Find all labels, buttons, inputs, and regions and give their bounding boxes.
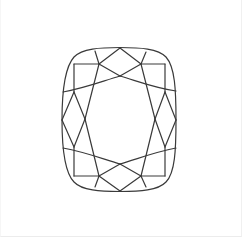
cushion-diamond-diagram	[0, 0, 250, 245]
facet-lines	[62, 48, 176, 192]
girdle-outline	[62, 48, 176, 192]
